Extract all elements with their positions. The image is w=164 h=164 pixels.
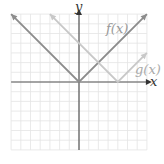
g-label: g(x)	[135, 63, 161, 76]
f-label: f(x)	[106, 22, 128, 35]
chart-plot	[0, 0, 164, 164]
y-axis-label: y	[75, 0, 82, 13]
